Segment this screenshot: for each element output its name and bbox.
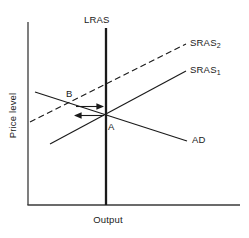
ad-label: AD: [192, 134, 206, 145]
sras2-label-subscript: 2: [217, 42, 221, 49]
sras2-label: SRAS2: [190, 37, 221, 48]
ad-label-text: AD: [192, 134, 206, 145]
x-axis-label: Output: [93, 214, 122, 225]
sras2-label-text: SRAS: [190, 37, 217, 48]
lras-label-text: LRAS: [84, 14, 110, 25]
lras-label: LRAS: [84, 14, 110, 25]
sras1-curve: [50, 71, 186, 144]
aggregate-supply-demand-figure: Price level Output LRAS SRAS2 SRAS1 AD A…: [0, 0, 249, 238]
sras1-label-text: SRAS: [190, 64, 217, 75]
point-a-label: A: [108, 121, 114, 132]
sras1-label-subscript: 1: [217, 69, 221, 76]
ad-curve: [35, 92, 187, 141]
point-b-label: B: [66, 88, 72, 99]
chart-canvas: [0, 0, 249, 238]
y-axis-label: Price level: [7, 84, 18, 148]
sras1-label: SRAS1: [190, 64, 221, 75]
